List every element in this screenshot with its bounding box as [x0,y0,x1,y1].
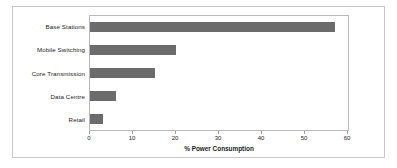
x-tick-label: 30 [215,135,222,141]
bar-series [90,16,348,130]
bar [90,22,335,32]
bar-row [90,84,348,107]
x-tick-label: 40 [258,135,265,141]
x-tick-label: 10 [129,135,136,141]
x-tick-mark [132,131,133,134]
category-axis: Base Stations Mobile Switching Core Tran… [13,15,89,131]
category-label: Data Centre [13,85,89,108]
bar [90,114,103,124]
x-tick-mark [304,131,305,134]
plot-area [89,15,349,131]
bar [90,68,155,78]
x-tick-label: 60 [344,135,351,141]
x-tick-mark [218,131,219,134]
bar [90,45,176,55]
category-label: Base Stations [13,15,89,38]
bar-row [90,107,348,130]
bar [90,91,116,101]
x-tick-mark [89,131,90,134]
x-axis-title: % Power Consumption [89,145,349,152]
x-tick-mark [347,131,348,134]
bar-row [90,62,348,85]
chart-figure: Base Stations Mobile Switching Core Tran… [12,6,385,158]
x-tick-mark [261,131,262,134]
x-tick-label: 50 [301,135,308,141]
category-label: Mobile Switching [13,38,89,61]
category-label: Retail [13,108,89,131]
x-tick-label: 20 [172,135,179,141]
x-tick-mark [175,131,176,134]
x-tick-label: 0 [87,135,90,141]
bar-row [90,16,348,39]
bar-row [90,39,348,62]
category-label: Core Transmission [13,61,89,84]
